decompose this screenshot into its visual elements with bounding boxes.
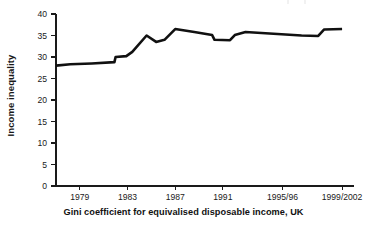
y-axis-tick-label: 30 xyxy=(37,52,47,62)
x-axis-tick-label: 1983 xyxy=(118,192,137,202)
x-axis-tick-marks xyxy=(80,186,342,190)
x-axis-tick-label: 1999/2002 xyxy=(322,192,363,202)
y-axis-tick-label: 35 xyxy=(37,31,47,41)
x-axis-tick-labels: 19791983198719911995/961999/2002 xyxy=(70,192,362,202)
y-axis-tick-marks xyxy=(51,14,56,186)
x-axis-tick-label: 1991 xyxy=(213,192,232,202)
x-axis-tick-label: 1987 xyxy=(166,192,185,202)
y-axis-tick-label: 40 xyxy=(37,9,47,19)
y-axis-tick-labels: 0510152025303540 xyxy=(37,9,47,191)
series-line-gini xyxy=(56,29,342,66)
chart-caption: Gini coefficient for equivalised disposa… xyxy=(0,207,367,217)
y-axis-tick-label: 15 xyxy=(37,117,47,127)
y-axis-tick-label: 10 xyxy=(37,138,47,148)
plot-area: 0510152025303540 19791983198719911995/96… xyxy=(0,0,367,205)
axis-lines xyxy=(56,14,354,186)
y-axis-tick-label: 0 xyxy=(42,181,47,191)
x-axis-tick-label: 1979 xyxy=(70,192,89,202)
y-axis-tick-label: 5 xyxy=(42,160,47,170)
chart-figure: Income inequality 0510152025303540 19791… xyxy=(0,0,367,232)
x-axis-tick-label: 1995/96 xyxy=(267,192,298,202)
y-axis-tick-label: 25 xyxy=(37,74,47,84)
y-axis-tick-label: 20 xyxy=(37,95,47,105)
